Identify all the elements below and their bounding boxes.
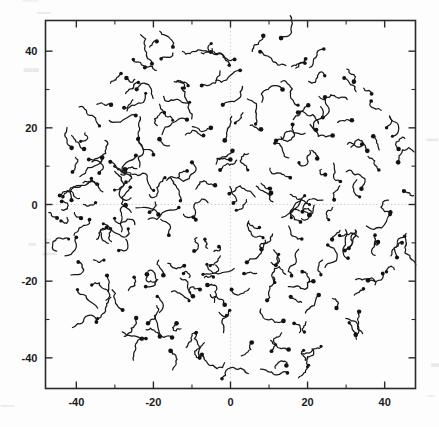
point-dot — [136, 136, 140, 140]
point-dot — [284, 363, 289, 368]
point-dot — [290, 274, 294, 278]
point-dot — [71, 170, 75, 174]
point-dot — [198, 288, 202, 292]
point-dot — [261, 34, 265, 38]
point-dot — [200, 353, 204, 357]
point-dot — [132, 276, 136, 280]
point-dot — [182, 272, 186, 276]
point-dot — [163, 176, 166, 179]
point-dot — [135, 87, 139, 91]
point-dot — [157, 137, 162, 142]
point-dot — [79, 140, 82, 143]
point-dot — [113, 189, 116, 192]
y-tick-label: 0 — [31, 199, 37, 211]
point-dot — [191, 215, 195, 219]
scan-speck — [431, 363, 439, 367]
point-dot — [268, 186, 272, 190]
point-dot — [291, 122, 295, 126]
point-dot — [332, 198, 336, 202]
point-dot — [55, 216, 59, 220]
point-dot — [122, 106, 126, 110]
point-dot — [137, 81, 141, 85]
point-dot — [270, 349, 274, 353]
point-dot — [213, 183, 217, 187]
point-dot — [218, 168, 222, 172]
plot-background — [0, 0, 439, 427]
point-dot — [144, 337, 148, 341]
point-dot — [123, 203, 128, 208]
point-dot — [279, 36, 284, 41]
point-dot — [179, 199, 182, 202]
point-dot — [67, 237, 70, 240]
point-dot — [144, 285, 148, 289]
point-dot — [358, 195, 361, 198]
point-dot — [171, 119, 174, 122]
point-dot — [234, 121, 237, 124]
point-dot — [316, 293, 321, 298]
x-tick-label: 20 — [301, 396, 313, 408]
point-dot — [222, 138, 227, 143]
point-dot — [360, 142, 364, 146]
point-dot — [308, 213, 312, 217]
point-dot — [238, 68, 242, 72]
point-dot — [167, 233, 171, 237]
point-dot — [203, 238, 206, 241]
point-dot — [76, 288, 79, 291]
point-dot — [273, 281, 276, 284]
point-dot — [343, 248, 347, 252]
point-dot — [235, 209, 238, 212]
point-dot — [150, 62, 154, 66]
point-dot — [304, 57, 308, 61]
point-dot — [323, 95, 327, 99]
point-dot — [376, 240, 381, 245]
point-dot — [385, 270, 389, 274]
point-dot — [323, 74, 327, 78]
point-dot — [97, 171, 101, 175]
point-dot — [227, 192, 231, 196]
point-dot — [400, 241, 404, 245]
point-dot — [308, 203, 311, 206]
point-dot — [124, 76, 129, 81]
point-dot — [258, 226, 262, 230]
point-dot — [269, 193, 272, 196]
point-dot — [74, 235, 78, 239]
point-dot — [151, 153, 155, 157]
point-dot — [181, 86, 184, 89]
point-dot — [188, 299, 191, 302]
point-dot — [315, 156, 320, 161]
point-dot — [156, 212, 160, 216]
point-dot — [171, 45, 175, 49]
point-dot — [338, 234, 341, 237]
y-tick-label: -20 — [22, 275, 38, 287]
point-dot — [280, 87, 285, 92]
point-dot — [127, 227, 130, 230]
point-dot — [302, 349, 305, 352]
point-dot — [373, 233, 377, 237]
point-dot — [395, 255, 399, 259]
point-dot — [290, 216, 293, 219]
point-dot — [210, 42, 213, 45]
scan-speck — [1, 405, 15, 407]
point-dot — [82, 147, 87, 152]
point-dot — [121, 308, 125, 312]
point-dot — [402, 189, 406, 193]
point-dot — [94, 320, 98, 324]
point-dot — [119, 72, 123, 76]
point-dot — [156, 295, 159, 298]
point-dot — [221, 103, 225, 107]
point-dot — [230, 149, 235, 154]
point-dot — [134, 114, 138, 118]
point-dot — [69, 198, 73, 202]
point-dot — [60, 200, 64, 204]
point-dot — [152, 189, 155, 192]
point-dot — [177, 206, 181, 210]
point-dot — [188, 101, 191, 104]
point-dot — [377, 168, 381, 172]
point-dot — [205, 263, 208, 266]
point-dot — [286, 371, 290, 375]
point-dot — [323, 173, 327, 177]
point-dot — [194, 332, 197, 335]
point-dot — [143, 66, 147, 70]
point-dot — [306, 103, 310, 107]
point-dot — [334, 306, 338, 310]
